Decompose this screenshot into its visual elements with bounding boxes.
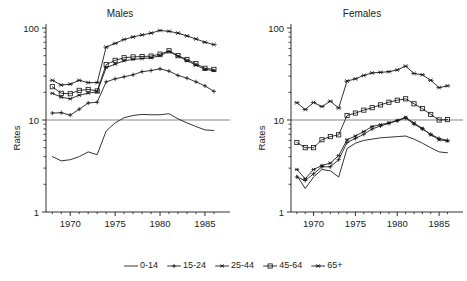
y-axis-label: Rates — [256, 125, 267, 150]
legend-item-25-44[interactable]: 25-44 — [216, 260, 255, 270]
legend-label-15-24: 15-24 — [183, 260, 206, 270]
legend-item-15-24[interactable]: 15-24 — [168, 260, 207, 270]
y-tick-label: 1 — [279, 207, 284, 218]
series-0-14 — [297, 136, 448, 189]
series-65+ — [294, 64, 450, 111]
y-tick-label: 10 — [28, 115, 39, 126]
x-tick-label: 1975 — [105, 218, 126, 229]
x-tick-label: 1980 — [387, 218, 408, 229]
figure-container: Males1001011970197519801985RatesFemales1… — [0, 0, 467, 281]
x-tick-label: 1970 — [60, 218, 81, 229]
legend-item-65+[interactable]: 65+ — [312, 260, 343, 270]
series-line-0-14 — [52, 114, 214, 161]
x-tick-label: 1980 — [149, 218, 170, 229]
y-tick-label: 100 — [23, 23, 39, 34]
chart-svg: Males1001011970197519801985RatesFemales1… — [0, 0, 467, 281]
x-tick-label: 1970 — [303, 218, 324, 229]
x-tick-label: 1985 — [194, 218, 215, 229]
series-45-64 — [50, 49, 216, 96]
series-65+ — [50, 29, 217, 87]
legend-label-65+: 65+ — [327, 260, 342, 270]
y-tick-label: 10 — [273, 115, 284, 126]
series-line-0-14 — [297, 136, 448, 189]
legend-label-0-14: 0-14 — [140, 260, 158, 270]
series-line-45-64 — [297, 99, 448, 148]
panel-females: Females1001011970197519801985Rates — [256, 8, 463, 229]
panel-title-females: Females — [343, 8, 381, 19]
x-tick-label: 1985 — [429, 218, 450, 229]
panel-males: Males1001011970197519801985Rates — [11, 8, 230, 229]
legend-label-25-44: 25-44 — [231, 260, 254, 270]
x-tick-label: 1975 — [345, 218, 366, 229]
y-tick-label: 1 — [34, 207, 39, 218]
legend: 0-1415-2425-4445-6465+ — [125, 260, 343, 270]
panel-title-males: Males — [107, 8, 134, 19]
y-axis-label: Rates — [11, 125, 22, 150]
y-tick-label: 100 — [268, 23, 284, 34]
legend-label-45-64: 45-64 — [279, 260, 302, 270]
series-0-14 — [52, 114, 214, 161]
legend-item-45-64[interactable]: 45-64 — [264, 260, 303, 270]
series-line-45-64 — [52, 51, 214, 94]
legend-item-0-14[interactable]: 0-14 — [125, 260, 159, 270]
